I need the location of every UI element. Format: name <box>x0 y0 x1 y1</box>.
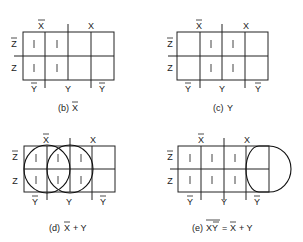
label-x: X <box>244 135 250 145</box>
caption-c-prefix: (c) <box>213 103 224 113</box>
caption-e-x: X <box>230 223 236 233</box>
label-y-bar-right: Y <box>254 197 260 207</box>
label-z: Z <box>12 176 18 186</box>
kmap-d: X X Z Z Y Y Y (d) X + Y <box>12 134 115 233</box>
label-z: Z <box>167 176 173 186</box>
caption-e-eq: = <box>222 223 227 233</box>
label-y: Y <box>66 197 72 207</box>
kmap-b: X X Z Z Y Y Y (b) X <box>11 20 114 113</box>
label-x-bar: X <box>43 135 49 145</box>
label-x-bar: X <box>198 135 204 145</box>
kmap-e: X X Z Z Y Y Y (e) XY = X + Y <box>167 134 291 233</box>
label-y-bar-left: Y <box>31 84 37 94</box>
karnaugh-map-figure: X X Z Z Y Y Y (b) X X <box>0 0 303 242</box>
label-z: Z <box>11 63 17 73</box>
caption-e-prefix: (e) <box>192 223 203 233</box>
label-y-bar-right: Y <box>100 197 106 207</box>
label-x: X <box>243 21 249 31</box>
label-z-bar: Z <box>12 152 18 162</box>
label-y: Y <box>221 197 227 207</box>
label-x: X <box>90 135 96 145</box>
caption-d-rest: + Y <box>73 223 87 233</box>
caption-b-prefix: (b) <box>58 103 69 113</box>
label-x-bar: X <box>38 21 44 31</box>
label-z-bar: Z <box>167 39 173 49</box>
kmap-c: X X Z Z Y Y Y (c) Y <box>167 20 268 113</box>
label-x-bar: X <box>196 21 202 31</box>
label-x: X <box>88 21 94 31</box>
caption-c-expr: Y <box>227 103 233 113</box>
label-z: Z <box>167 63 173 73</box>
caption-e-lhs: XY <box>206 223 218 233</box>
label-y-bar-left: Y <box>185 84 191 94</box>
label-y-bar-left: Y <box>187 197 193 207</box>
label-y: Y <box>219 84 225 94</box>
label-y-bar-right: Y <box>99 84 105 94</box>
caption-d-prefix: (d) <box>49 223 60 233</box>
caption-d-x: X <box>64 223 70 233</box>
caption-e-rest: + Y <box>239 223 253 233</box>
label-y: Y <box>65 84 71 94</box>
label-z-bar: Z <box>167 152 173 162</box>
label-z-bar: Z <box>11 39 17 49</box>
label-y-bar-right: Y <box>255 84 261 94</box>
caption-b-expr: X <box>72 103 78 113</box>
label-y-bar-left: Y <box>32 197 38 207</box>
